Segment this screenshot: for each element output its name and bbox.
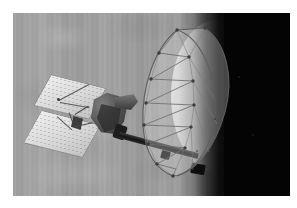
dish-truss-node [144,101,147,104]
dish-rib [159,30,177,53]
dish-rib [146,81,193,103]
boom-collar [160,150,171,160]
boom-base-fitting [190,163,206,175]
dish-truss-node [187,55,190,58]
dish-rib [146,103,194,105]
background-speck [214,118,216,120]
dish-web-line [144,103,146,125]
dish-web-line [146,79,151,103]
spacecraft [13,12,290,196]
dish-rib [151,79,193,81]
dish-truss-node [203,26,206,29]
photograph [13,12,290,196]
dish-web-line [191,105,194,127]
dish-rib [173,169,176,176]
dish-web-line [189,57,215,100]
dish-truss-node [142,123,145,126]
dish-rib [159,53,189,57]
dish-truss-node [192,103,195,106]
dish-truss-node [175,28,178,31]
background-speck [238,76,240,78]
mast-tip [57,98,60,101]
dish-truss-node [155,162,158,165]
dish-rib [144,105,194,125]
dish-rib [144,125,191,127]
dish-truss-node [171,174,174,177]
dish-web-line [194,105,209,152]
dish-web-line [185,127,191,148]
screenshot-root: Black-and-white artist concept of a spac… [0,0,297,208]
dish-truss-node [191,79,194,82]
dish-web-line [193,81,194,105]
dish-truss-node [189,125,192,128]
background-speck [196,150,198,152]
dish-web-line [177,30,189,57]
dish-web-line [151,53,159,79]
dish-truss-node [149,77,152,80]
dish-web-line [189,28,205,57]
dish-web-line [157,164,173,176]
antenna-support-boom [118,132,199,159]
dish-rib [151,57,189,79]
dish-truss-node [157,51,160,54]
background-speck [252,134,254,136]
dish-rib [157,164,176,169]
dish-web-line [189,57,193,81]
